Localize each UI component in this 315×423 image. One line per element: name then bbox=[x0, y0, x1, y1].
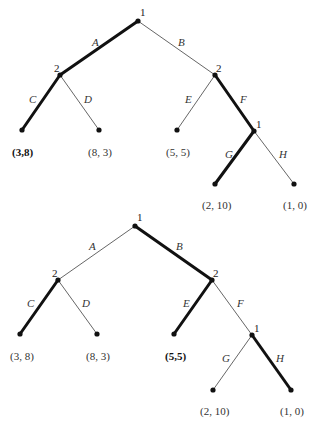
player-label: 2 bbox=[213, 267, 219, 279]
action-label: E bbox=[182, 297, 190, 309]
edge-c bbox=[22, 75, 60, 130]
edge-g bbox=[215, 131, 254, 184]
player-label: 2 bbox=[52, 267, 58, 279]
action-label: C bbox=[27, 297, 35, 309]
decision-node bbox=[135, 18, 140, 23]
action-label: E bbox=[184, 93, 192, 105]
payoff-label: (2, 10) bbox=[200, 405, 230, 418]
edge-h bbox=[252, 335, 291, 390]
terminal-node bbox=[171, 331, 176, 336]
action-label: F bbox=[239, 93, 247, 105]
action-label: B bbox=[178, 36, 185, 48]
payoff-label: (1, 0) bbox=[280, 405, 304, 418]
player-label: 1 bbox=[256, 118, 262, 130]
action-label: A bbox=[88, 240, 96, 252]
action-label: C bbox=[29, 93, 37, 105]
payoff-label: (5, 5) bbox=[166, 146, 190, 159]
edge-g bbox=[213, 335, 252, 390]
terminal-node bbox=[288, 387, 293, 392]
payoff-label: (5,5) bbox=[165, 350, 186, 363]
action-label: D bbox=[81, 297, 90, 309]
edge-c bbox=[20, 280, 58, 334]
player-label: 1 bbox=[254, 322, 260, 334]
decision-node bbox=[132, 223, 137, 228]
edge-f bbox=[215, 75, 254, 131]
player-label: 1 bbox=[137, 211, 143, 223]
tree-top: 1 2 2 1 A B C D E F G H (3,8) (8, 3) (5,… bbox=[12, 6, 307, 212]
edge-a bbox=[60, 21, 138, 75]
game-trees-canvas: 1 2 2 1 A B C D E F G H (3,8) (8, 3) (5,… bbox=[0, 0, 315, 423]
edge-f bbox=[212, 280, 252, 335]
terminal-node bbox=[94, 331, 99, 336]
payoff-label: (8, 3) bbox=[88, 146, 112, 159]
edge-d bbox=[60, 75, 99, 130]
action-label: H bbox=[275, 352, 285, 364]
terminal-node bbox=[212, 181, 217, 186]
player-label: 2 bbox=[216, 62, 222, 74]
action-label: G bbox=[225, 148, 233, 160]
edge-a bbox=[58, 226, 135, 280]
terminal-node bbox=[17, 331, 22, 336]
edge-b bbox=[135, 226, 212, 280]
payoff-label: (3,8) bbox=[12, 146, 33, 159]
action-label: D bbox=[83, 93, 92, 105]
action-label: G bbox=[222, 352, 230, 364]
terminal-node bbox=[291, 181, 296, 186]
player-label: 2 bbox=[54, 62, 60, 74]
payoff-label: (8, 3) bbox=[86, 350, 110, 363]
edge-b bbox=[138, 21, 215, 75]
payoff-label: (1, 0) bbox=[283, 199, 307, 212]
player-label: 1 bbox=[140, 6, 146, 18]
edge-e bbox=[177, 75, 215, 130]
terminal-node bbox=[19, 127, 24, 132]
payoff-label: (2, 10) bbox=[202, 199, 232, 212]
terminal-node bbox=[174, 127, 179, 132]
action-label: B bbox=[176, 240, 183, 252]
terminal-node bbox=[210, 387, 215, 392]
edge-e bbox=[174, 280, 212, 334]
action-label: F bbox=[236, 297, 244, 309]
action-label: H bbox=[278, 148, 288, 160]
edge-d bbox=[58, 280, 97, 334]
terminal-node bbox=[96, 127, 101, 132]
action-label: A bbox=[91, 36, 99, 48]
tree-bottom: 1 2 2 1 A B C D E F G H (3, 8) (8, 3) (5… bbox=[10, 211, 304, 418]
edge-h bbox=[254, 131, 294, 184]
payoff-label: (3, 8) bbox=[10, 350, 34, 363]
